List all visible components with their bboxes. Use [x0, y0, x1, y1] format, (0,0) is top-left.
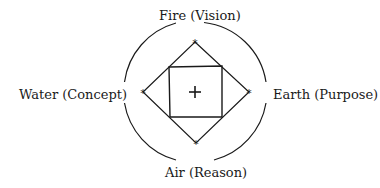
label-earth: Earth (Purpose): [273, 88, 378, 101]
label-water: Water (Concept): [19, 88, 127, 101]
label-fire: Fire (Vision): [159, 9, 241, 22]
label-air: Air (Reason): [165, 166, 247, 179]
circle-arc-top-left: [125, 23, 177, 82]
vertex-asterisk-left: *: [140, 87, 146, 100]
circle-arc-bottom-left: [125, 103, 177, 160]
center-plus-icon: [189, 86, 201, 98]
vertex-asterisk-right: *: [246, 87, 252, 100]
vertex-asterisk-bottom: *: [193, 138, 199, 151]
circle-arc-top-right: [204, 23, 266, 83]
vertex-asterisk-top: *: [192, 37, 198, 50]
